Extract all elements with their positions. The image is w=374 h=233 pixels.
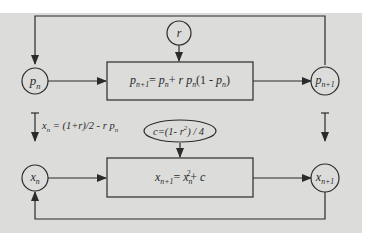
quadratic-equation: xn+1= xn2+ c (155, 170, 205, 186)
logistic-equation: pn+1= pn+ r pn(1 - pn) (130, 74, 230, 89)
node-pn-label: pn (22, 74, 48, 90)
diagram-canvas: pn pn+1 r xn xn+1 pn+1= pn+ r pn(1 - pn)… (0, 0, 374, 233)
node-xn-label: xn (22, 171, 48, 186)
c-parameter-label: c=(1- r2) / 4 (153, 125, 204, 137)
node-r-label: r (167, 27, 191, 39)
transform-label: xn = (1+r)/2 - r pn (42, 121, 118, 134)
node-xn1-label: xn+1 (311, 171, 339, 186)
node-pn1-label: pn+1 (311, 74, 339, 89)
